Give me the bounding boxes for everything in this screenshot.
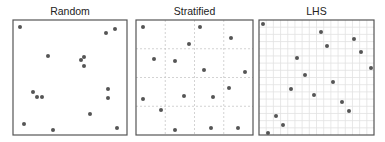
sample-point <box>106 87 110 91</box>
sample-point <box>104 31 108 35</box>
sample-point <box>18 25 22 29</box>
sample-point <box>187 42 191 46</box>
sample-point <box>312 93 316 97</box>
sample-point <box>211 95 215 99</box>
sample-point <box>152 57 156 61</box>
sample-point <box>331 80 335 84</box>
sample-point <box>115 126 119 130</box>
sample-point <box>40 95 44 99</box>
sample-point <box>352 37 356 41</box>
sample-point <box>51 128 55 132</box>
sample-point <box>274 114 278 118</box>
sample-point <box>82 55 86 59</box>
sample-point <box>82 64 86 68</box>
sample-point <box>266 131 270 135</box>
sample-point <box>79 58 83 62</box>
sample-point <box>369 66 373 70</box>
sample-point <box>46 54 50 58</box>
panel-stratified <box>136 20 253 135</box>
sample-point <box>113 27 117 31</box>
sample-point <box>281 123 285 127</box>
sample-point <box>209 126 213 130</box>
panel-lhs <box>259 20 374 135</box>
sample-point <box>35 95 39 99</box>
sample-point <box>359 50 363 54</box>
sample-point <box>141 25 145 29</box>
sample-point <box>261 22 265 26</box>
sample-point <box>141 97 145 101</box>
sample-point <box>227 86 231 90</box>
sample-point <box>289 87 293 91</box>
sample-point <box>325 44 329 48</box>
sample-point <box>319 30 323 34</box>
sample-point <box>347 109 351 113</box>
sample-point <box>303 73 307 77</box>
sample-point <box>88 112 92 116</box>
sample-point <box>202 68 206 72</box>
sample-point <box>106 96 110 100</box>
sample-point <box>159 108 163 112</box>
sample-point <box>22 122 26 126</box>
scatter-panels <box>0 0 385 142</box>
panel-random <box>13 20 127 135</box>
sample-point <box>243 70 247 74</box>
sample-point <box>236 126 240 130</box>
sample-point <box>295 56 299 60</box>
sample-point <box>340 100 344 104</box>
sample-point <box>182 94 186 98</box>
sample-point <box>229 36 233 40</box>
sample-point <box>198 25 202 29</box>
sample-point <box>173 59 177 63</box>
panel-border <box>13 20 127 135</box>
sample-point <box>173 128 177 132</box>
sample-point <box>31 90 35 94</box>
